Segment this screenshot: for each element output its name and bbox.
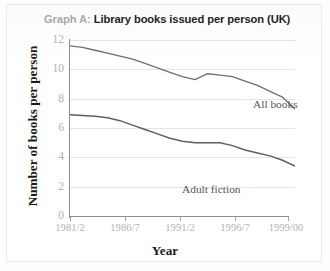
x-tick-1 xyxy=(70,217,71,221)
series-label-adult-fiction: Adult fiction xyxy=(182,183,241,195)
x-tick-5 xyxy=(288,217,289,221)
x-axis-line xyxy=(69,216,289,217)
x-tick-label-1991-2: 1991/2 xyxy=(153,222,207,233)
y-tick-label-6: 6 xyxy=(40,121,64,134)
y-tick-label-0: 0 xyxy=(40,209,64,222)
chart-title: Graph A: Library books issued per person… xyxy=(44,13,290,25)
chart-figure: Graph A: Library books issued per person… xyxy=(0,0,330,271)
line-adult-fiction xyxy=(70,115,295,166)
chart-title-main: Library books issued per person (UK) xyxy=(94,13,291,25)
y-tick-label-4: 4 xyxy=(40,150,64,163)
y-tick-label-10: 10 xyxy=(40,62,64,75)
x-tick-label-1986-7: 1986/7 xyxy=(98,222,152,233)
x-tick-2 xyxy=(125,217,126,221)
x-tick-label-1996-7: 1996/7 xyxy=(208,222,262,233)
y-tick-label-8: 8 xyxy=(40,92,64,105)
x-axis-title: Year xyxy=(0,243,330,259)
x-tick-label-1981-2: 1981/2 xyxy=(43,222,97,233)
x-tick-4 xyxy=(235,217,236,221)
y-tick-label-2: 2 xyxy=(40,180,64,193)
x-tick-label-1999-00: 1999/00 xyxy=(259,222,313,233)
series-label-all-books: All books xyxy=(253,98,298,110)
chart-title-prefix: Graph A: xyxy=(44,13,91,25)
y-axis-title: Number of books per person xyxy=(25,31,41,221)
plot-area: All books Adult fiction xyxy=(70,40,295,216)
y-tick-label-12: 12 xyxy=(40,33,64,46)
x-tick-3 xyxy=(180,217,181,221)
